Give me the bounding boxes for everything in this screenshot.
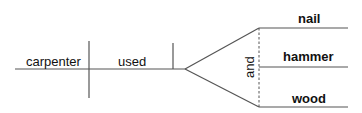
object-label-hammer: hammer bbox=[283, 49, 334, 64]
subject-label: carpenter bbox=[26, 54, 82, 69]
conjunction-label: and bbox=[242, 56, 257, 78]
object-label-nail: nail bbox=[298, 11, 320, 26]
object-label-wood: wood bbox=[291, 91, 326, 106]
verb-label: used bbox=[118, 54, 146, 69]
sentence-diagram: carpenter used and nail hammer wood bbox=[0, 0, 362, 113]
